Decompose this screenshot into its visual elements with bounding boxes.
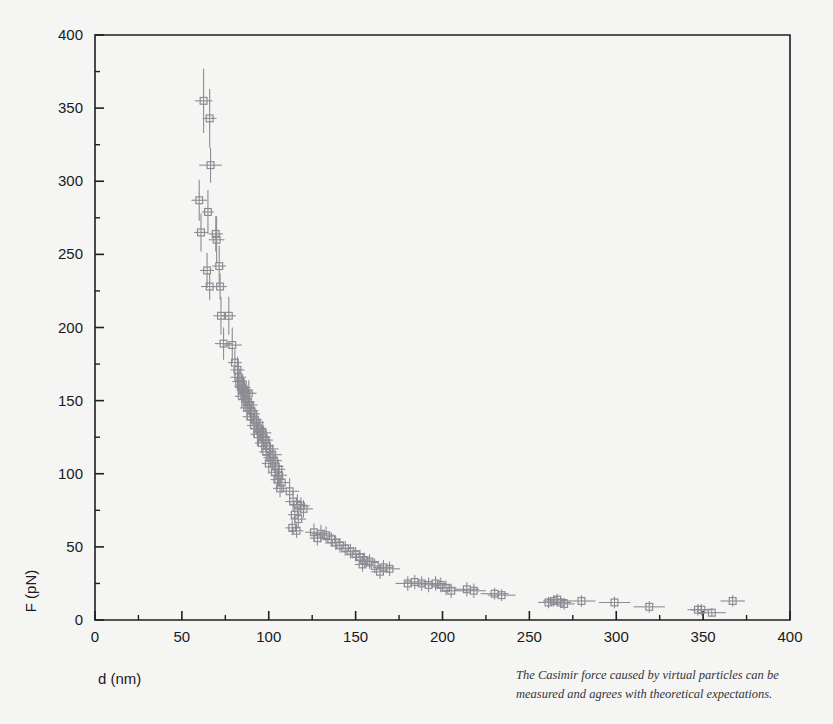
- data-point: [213, 273, 227, 299]
- y-tick-label: 200: [58, 319, 83, 336]
- y-tick-label: 350: [58, 99, 83, 116]
- data-point: [215, 328, 232, 360]
- data-point: [212, 246, 226, 287]
- y-tick-label: 250: [58, 245, 83, 262]
- y-axis-title: F (pN): [22, 570, 39, 613]
- x-tick-label: 100: [256, 628, 281, 645]
- x-tick-label: 400: [777, 628, 802, 645]
- data-series-layer: [191, 69, 744, 617]
- data-point: [488, 589, 516, 601]
- data-point: [481, 588, 509, 600]
- y-tick-label: 400: [58, 26, 83, 43]
- x-tick-label: 150: [343, 628, 368, 645]
- plot-frame-border: [95, 35, 790, 620]
- data-point: [634, 601, 665, 613]
- data-point: [209, 216, 223, 251]
- y-tick-label: 100: [58, 465, 83, 482]
- x-axis-tick-labels: 050100150200250300350400: [91, 628, 803, 645]
- y-tick-label: 0: [75, 611, 83, 628]
- x-tick-label: 50: [174, 628, 191, 645]
- x-tick-label: 350: [691, 628, 716, 645]
- x-tick-label: 0: [91, 628, 99, 645]
- data-point: [194, 213, 208, 251]
- figure-root: 050100150200250300350400 050100150200250…: [0, 0, 833, 724]
- caption-line-1: The Casimir force caused by virtual part…: [516, 668, 779, 682]
- y-tick-label: 150: [58, 392, 83, 409]
- x-axis-ticks: [95, 611, 790, 620]
- data-point: [209, 216, 225, 263]
- data-point: [199, 148, 222, 183]
- x-axis-title: d (nm): [98, 670, 141, 687]
- y-tick-label: 50: [66, 538, 83, 555]
- plot-frame: [95, 35, 790, 620]
- data-point: [223, 328, 242, 363]
- data-point: [202, 190, 214, 234]
- x-tick-label: 300: [604, 628, 629, 645]
- y-tick-label: 300: [58, 172, 83, 189]
- y-axis-tick-labels: 050100150200250300350400: [58, 26, 83, 628]
- caption-line-2: measured and agrees with theoretical exp…: [516, 687, 772, 701]
- y-axis-ticks: [95, 35, 104, 620]
- data-point: [721, 595, 745, 607]
- casimir-force-chart: 050100150200250300350400 050100150200250…: [0, 0, 833, 724]
- x-tick-label: 200: [430, 628, 455, 645]
- data-point: [599, 597, 630, 609]
- x-tick-label: 250: [517, 628, 542, 645]
- data-point: [568, 595, 596, 607]
